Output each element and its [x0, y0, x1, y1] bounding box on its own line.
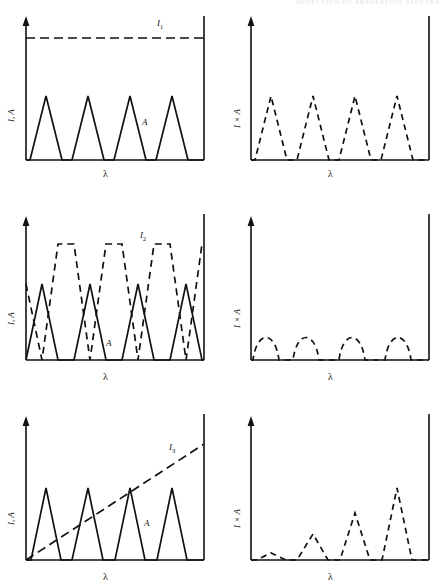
curve-I1xA-row1	[251, 96, 429, 160]
curve-label-I2: I2	[140, 230, 146, 242]
curve-A-row1	[26, 96, 204, 160]
panel-row2-right	[239, 208, 439, 373]
panel-row2-left: I2 A	[14, 208, 214, 373]
y-axis-label-row3-right: I × A	[232, 509, 242, 528]
curve-label-I3: I3	[169, 442, 175, 454]
x-axis-label-row1-left: λ	[103, 168, 108, 179]
y-axis-label-row1-left: I, A	[6, 109, 16, 122]
panel-row1-left: I1 A	[14, 12, 214, 172]
panel-row1-left-plot	[14, 12, 214, 172]
x-axis-label-row2-left: λ	[103, 371, 108, 382]
y-axis-label-row2-left: I, A	[6, 312, 16, 325]
curve-label-I1: I1	[157, 18, 163, 30]
figure-container: DETECTION OF ABSORPTION SPECTRA I1 A I, …	[0, 0, 444, 588]
panel-row1-right-plot	[239, 12, 439, 172]
curve-A-row3	[26, 488, 204, 560]
y-axis-label-row2-right: I × A	[232, 309, 242, 328]
panel-row1-right	[239, 12, 439, 172]
panel-row3-right	[239, 408, 439, 573]
panel-row3-left: I3 A	[14, 408, 214, 573]
axes-row2-left	[23, 214, 204, 360]
curve-A-row2	[26, 284, 204, 360]
curve-label-A-row3: A	[144, 518, 150, 528]
axes-row3-right	[248, 414, 429, 560]
curve-I3xA-row3	[251, 488, 429, 560]
curve-I3-row3	[26, 444, 204, 560]
panel-row3-right-plot	[239, 408, 439, 573]
panel-row3-left-plot	[14, 408, 214, 573]
curve-label-A-row1: A	[142, 117, 148, 127]
page-header: DETECTION OF ABSORPTION SPECTRA	[0, 0, 444, 10]
curve-I2-row2	[26, 244, 204, 360]
x-axis-label-row3-left: λ	[103, 571, 108, 582]
panel-row2-left-plot	[14, 208, 214, 373]
panel-row2-right-plot	[239, 208, 439, 373]
y-axis-label-row3-left: I, A	[6, 512, 16, 525]
curve-I2xA-row2	[251, 338, 429, 361]
x-axis-label-row3-right: λ	[328, 571, 333, 582]
curve-label-A-row2: A	[106, 338, 112, 348]
axes-row3-left	[23, 414, 204, 560]
x-axis-label-row2-right: λ	[328, 371, 333, 382]
header-running-text: DETECTION OF ABSORPTION SPECTRA	[296, 0, 440, 5]
x-axis-label-row1-right: λ	[328, 168, 333, 179]
axes-row1-right	[248, 16, 429, 160]
y-axis-label-row1-right: I × A	[232, 109, 242, 128]
